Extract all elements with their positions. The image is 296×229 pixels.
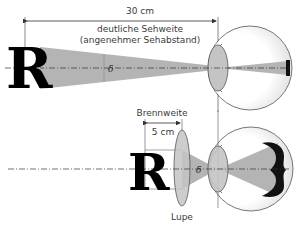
top-diagram: 30 cm deutliche Sehweite (angenehmer Seh… <box>5 6 292 112</box>
bottom-angle-symbol: δ <box>196 165 201 175</box>
bottom-distance-label: 5 cm <box>152 127 174 137</box>
top-distance-label: 30 cm <box>126 6 154 16</box>
focal-length-label: Brennweite <box>136 108 188 118</box>
top-caption-line1: deutliche Sehweite <box>97 24 183 34</box>
bottom-diagram: Brennweite 5 cm R δ Lupe <box>8 108 293 222</box>
magnifier-diagram: 30 cm deutliche Sehweite (angenehmer Seh… <box>0 0 296 229</box>
top-object-letter: R <box>6 35 53 101</box>
bottom-object-letter: R <box>128 143 170 202</box>
top-caption-line2: (angenehmer Sehabstand) <box>80 35 201 45</box>
lens-label: Lupe <box>171 212 193 222</box>
magnifier-lens <box>174 130 190 206</box>
top-angle-symbol: δ <box>108 64 113 74</box>
